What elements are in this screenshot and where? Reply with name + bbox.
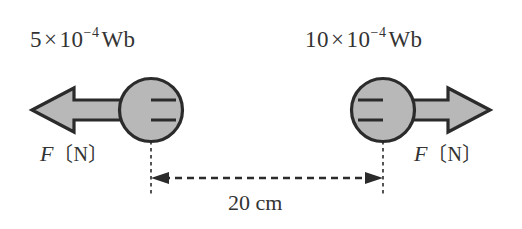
right-force-symbol: F	[414, 141, 427, 166]
right-flux-exponent: −4	[370, 25, 386, 40]
right-flux-unit: Wb	[386, 27, 422, 52]
left-force-label: F〔N〕	[40, 143, 108, 165]
right-magnetic-pole	[352, 79, 415, 142]
right-flux-times-sign: ×	[329, 27, 346, 52]
left-force-symbol: F	[40, 141, 53, 166]
right-force-close-bracket: 〕	[462, 143, 482, 165]
left-magnetic-pole	[120, 79, 183, 142]
right-flux-base: 10	[346, 27, 370, 52]
right-magnetic-flux-label: 10×10−4Wb	[305, 27, 423, 51]
dimension-arrowhead-right	[365, 172, 383, 184]
left-force-unit: N	[73, 143, 87, 165]
left-flux-unit: Wb	[99, 27, 135, 52]
left-magnetic-flux-label: 5×10−4Wb	[30, 27, 136, 51]
right-force-unit: N	[447, 143, 461, 165]
left-force-open-bracket: 〔	[53, 143, 73, 165]
left-force-close-bracket: 〕	[88, 143, 108, 165]
physics-force-diagram: 5×10−4Wb 10×10−4Wb F〔N〕 F〔N〕 20 cm	[0, 0, 522, 229]
right-force-label: F〔N〕	[414, 143, 482, 165]
separation-distance-label: 20 cm	[228, 192, 282, 214]
dimension-arrowhead-left	[151, 172, 169, 184]
right-flux-coefficient: 10	[305, 27, 329, 52]
left-flux-base: 10	[59, 27, 83, 52]
left-flux-times-sign: ×	[42, 27, 59, 52]
right-force-open-bracket: 〔	[427, 143, 447, 165]
left-flux-exponent: −4	[83, 25, 99, 40]
left-flux-coefficient: 5	[30, 27, 42, 52]
